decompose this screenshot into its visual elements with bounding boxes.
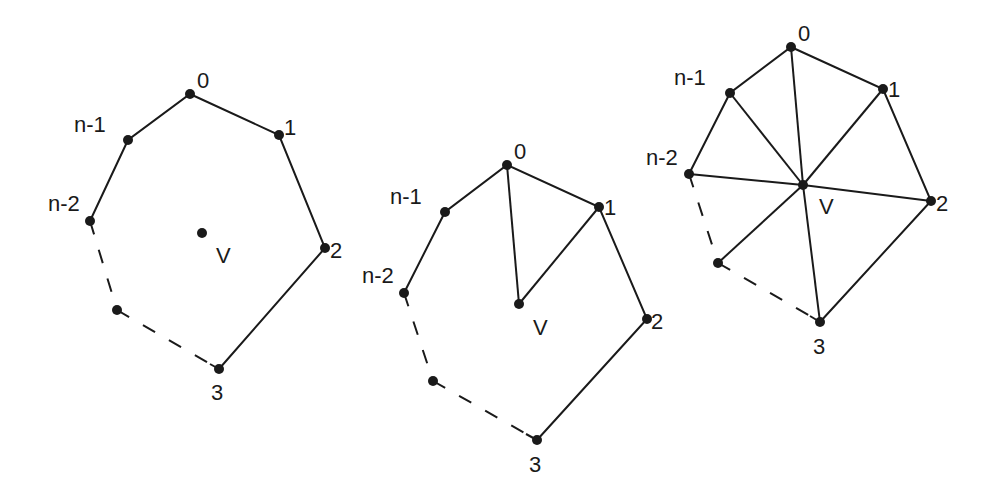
- vertex-1: [274, 130, 284, 140]
- dashed-edge: [404, 293, 433, 381]
- fan-edge-V-0: [791, 47, 803, 185]
- fan-edge-V-1: [519, 207, 599, 304]
- diagram-full-fan: 0 1 2 3 n-2 n-1 V: [646, 21, 948, 359]
- vertex-dashed: [112, 305, 122, 315]
- label-n-2: n-2: [48, 191, 80, 216]
- diagram-first-triangle: 0 1 2 3 n-2 n-1 V: [362, 139, 663, 477]
- label-n-1: n-1: [674, 65, 706, 90]
- label-0: 0: [197, 68, 209, 93]
- label-3: 3: [529, 452, 541, 477]
- label-n-2: n-2: [362, 263, 394, 288]
- label-3: 3: [813, 334, 825, 359]
- fan-edge-V-1: [803, 89, 883, 185]
- polygon-triangulation-figure: 0 1 2 3 n-2 n-1 V 0 1 2 3 n-2 n-1 V: [0, 0, 997, 500]
- vertex-3: [815, 317, 825, 327]
- vertex-n-1: [123, 135, 133, 145]
- vertex-V: [798, 180, 808, 190]
- vertex-3: [214, 364, 224, 374]
- label-2: 2: [651, 309, 663, 334]
- label-1: 1: [284, 115, 296, 140]
- vertex-n-1: [440, 207, 450, 217]
- label-V: V: [819, 194, 834, 219]
- vertex-n-2: [684, 169, 694, 179]
- label-0: 0: [514, 139, 526, 164]
- label-n-1: n-1: [390, 184, 422, 209]
- fan-edge-V-0: [507, 165, 519, 304]
- fan-edge-V-dashed: [718, 185, 803, 263]
- label-1: 1: [604, 195, 616, 220]
- vertex-0: [786, 42, 796, 52]
- label-n-1: n-1: [74, 112, 106, 137]
- vertex-2: [926, 196, 936, 206]
- label-0: 0: [798, 21, 810, 46]
- vertex-3: [532, 435, 542, 445]
- vertex-1: [594, 202, 604, 212]
- vertex-1: [878, 84, 888, 94]
- label-n-2: n-2: [646, 145, 678, 170]
- vertex-2: [320, 243, 330, 253]
- vertex-dashed: [713, 258, 723, 268]
- label-2: 2: [936, 191, 948, 216]
- fan-edge-V-3: [803, 185, 820, 322]
- vertex-n-2: [85, 216, 95, 226]
- dashed-edge: [689, 174, 718, 263]
- vertex-n-2: [399, 288, 409, 298]
- vertex-dashed: [428, 376, 438, 386]
- diagram-polygon-with-point: 0 1 2 3 n-2 n-1 V: [48, 68, 342, 405]
- vertex-0: [185, 89, 195, 99]
- label-3: 3: [211, 380, 223, 405]
- vertex-V: [514, 299, 524, 309]
- dashed-edge: [117, 310, 212, 365]
- vertex-n-1: [725, 88, 735, 98]
- dashed-edge: [718, 263, 812, 317]
- vertex-0: [502, 160, 512, 170]
- dashed-edge: [433, 381, 528, 435]
- label-V: V: [216, 243, 231, 268]
- label-V: V: [533, 315, 548, 340]
- label-2: 2: [330, 238, 342, 263]
- dashed-edge: [90, 221, 117, 310]
- vertex-V: [197, 228, 207, 238]
- label-1: 1: [888, 77, 900, 102]
- fan-edge-V-n-1: [730, 93, 803, 185]
- fan-edge-V-n-2: [689, 174, 803, 185]
